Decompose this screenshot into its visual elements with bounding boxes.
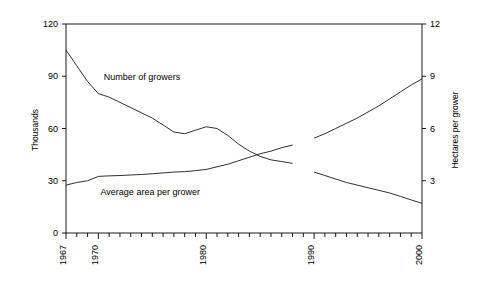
y-tick-label-left: 120 — [43, 19, 58, 29]
y-axis-left-title: Thousands — [30, 109, 40, 151]
x-tick-label: 1990 — [306, 245, 316, 265]
y-tick-label-left: 60 — [48, 124, 58, 134]
series-annotation-label: Number of growers — [104, 72, 181, 82]
x-tick-label: 1980 — [198, 245, 208, 265]
y-tick-label-right: 6 — [430, 124, 435, 134]
x-tick-label: 1970 — [90, 245, 100, 265]
y-tick-label-left: 90 — [48, 71, 58, 81]
y-tick-label-left: 0 — [53, 228, 58, 238]
chart-container: 0306090120 36912 19671970198019902000 Nu… — [0, 0, 480, 295]
chart-background — [0, 0, 480, 295]
y-axis-right-title: Hectares per grower — [450, 91, 460, 168]
y-tick-label-left: 30 — [48, 176, 58, 186]
y-tick-label-right: 9 — [430, 71, 435, 81]
y-tick-label-right: 12 — [430, 19, 440, 29]
line-chart: 0306090120 36912 19671970198019902000 Nu… — [0, 0, 480, 295]
y-tick-label-right: 3 — [430, 176, 435, 186]
x-tick-label: 2000 — [414, 245, 424, 265]
x-tick-label: 1967 — [58, 245, 68, 265]
series-annotation-label: Average area per grower — [101, 187, 200, 197]
